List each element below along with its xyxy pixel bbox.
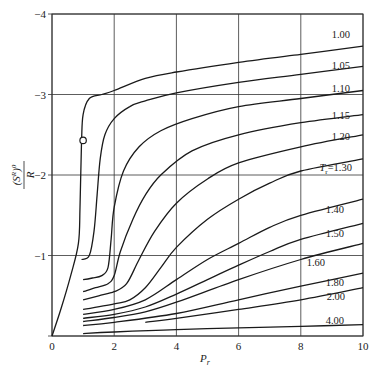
curve-labels: 1.001.051.101.151.20Tr=1.301.401.501.601… [307, 29, 352, 326]
curve-tr-1-00 [52, 46, 363, 336]
curve-label-tr-1-80: 1.80 [326, 277, 344, 288]
y-tick-label: −4 [34, 8, 46, 20]
curve-label-tr-1-05: 1.05 [332, 60, 350, 71]
curves [52, 46, 363, 336]
axis-ticks: 0246810−1−2−3−4 [34, 8, 369, 352]
x-tick-label: 6 [236, 340, 242, 352]
x-axis-label: Pr [199, 352, 211, 367]
curve-label-tr-1-10: 1.10 [332, 83, 350, 94]
x-tick-label: 2 [111, 340, 117, 352]
curve-label-tr-2-00: 2.00 [327, 291, 345, 302]
x-tick-label: 0 [49, 340, 55, 352]
curve-tr-1-80 [83, 273, 363, 325]
curve-label-tr-4-00: 4.00 [326, 315, 344, 326]
x-tick-label: 4 [174, 340, 180, 352]
x-tick-label: 10 [358, 340, 370, 352]
curve-label-tr-1-40: 1.40 [326, 204, 344, 215]
curve-label-tr-1-60: 1.60 [307, 257, 325, 268]
curve-label-tr-1-00: 1.00 [332, 29, 350, 40]
curve-label-tr-1-30: Tr=1.30 [320, 162, 352, 176]
y-tick-label: −3 [34, 89, 46, 101]
x-tick-label: 8 [298, 340, 304, 352]
svg-text:(SR)0: (SR)0 [10, 164, 23, 185]
y-tick-label: −2 [34, 169, 46, 181]
svg-text:R: R [24, 171, 36, 179]
curve-label-tr-1-50: 1.50 [326, 228, 344, 239]
chart: 1.001.051.101.151.20Tr=1.301.401.501.601… [0, 0, 374, 371]
curve-label-tr-1-20: 1.20 [332, 131, 350, 142]
curve-tr-1-20 [83, 135, 363, 300]
critical-point-marker [80, 137, 86, 143]
y-axis-label: (SR)0 R [10, 161, 36, 189]
curve-label-tr-1-15: 1.15 [332, 110, 350, 121]
y-tick-label: −1 [34, 250, 46, 262]
curve-tr-4-00 [83, 325, 363, 334]
